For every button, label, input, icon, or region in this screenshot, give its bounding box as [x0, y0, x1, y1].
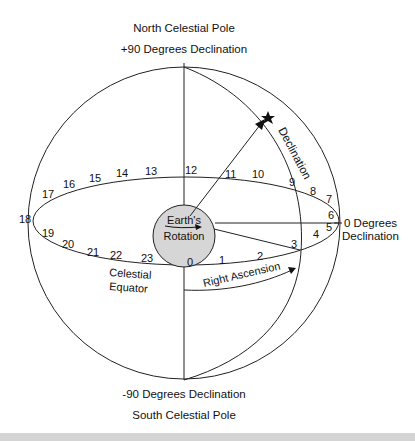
earth-label-line1: Earth's	[167, 214, 201, 226]
north-declination-label: +90 Degrees Declination	[121, 43, 247, 55]
north-pole-label: North Celestial Pole	[133, 22, 235, 34]
hour-1: 1	[219, 254, 225, 266]
earth-label-line2: Rotation	[164, 230, 205, 242]
zero-declination-label-line1: 0 Degrees	[344, 217, 397, 229]
hour-21: 21	[87, 246, 99, 258]
hour-22: 22	[110, 249, 122, 261]
hour-10: 10	[252, 168, 264, 180]
hour-14: 14	[116, 167, 128, 179]
hour-15: 15	[89, 172, 101, 184]
hour-2: 2	[257, 250, 263, 262]
hour-7: 7	[326, 193, 332, 205]
hour-5: 5	[326, 221, 332, 233]
celestial-sphere-diagram: North Celestial Pole +90 Degrees Declina…	[0, 0, 415, 441]
hour-16: 16	[63, 178, 75, 190]
equator-label-line1: Celestial	[109, 266, 152, 281]
hour-13: 13	[145, 165, 157, 177]
equator-label-line2: Equator	[109, 280, 149, 295]
hour-8: 8	[310, 185, 316, 197]
hour-18: 18	[19, 213, 31, 225]
bottom-gray-bar	[0, 433, 415, 441]
hour-9: 9	[289, 176, 295, 188]
hour-23: 23	[141, 252, 153, 264]
hour-0: 0	[187, 256, 193, 268]
zero-declination-label-line2: Declination	[342, 230, 399, 242]
hour-17: 17	[42, 188, 54, 200]
hour-12: 12	[185, 164, 197, 176]
hour-19: 19	[42, 227, 54, 239]
south-declination-label: -90 Degrees Declination	[122, 388, 245, 400]
hour-11: 11	[225, 168, 236, 180]
hour-6: 6	[328, 209, 334, 221]
hour-4: 4	[313, 228, 319, 240]
right-ascension-arrowhead	[288, 267, 296, 274]
hour-20: 20	[62, 238, 74, 250]
south-pole-label: South Celestial Pole	[132, 409, 236, 421]
line-to-3h	[214, 229, 300, 250]
hour-3: 3	[291, 238, 297, 250]
